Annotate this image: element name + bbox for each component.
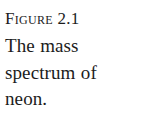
figure-label-lead-letter: F <box>5 9 15 28</box>
caption-line-1: The mass <box>5 33 144 60</box>
figure-label-word: igure <box>15 9 53 28</box>
figure-caption-block: Figure 2.1 The mass spectrum of neon. <box>0 0 148 131</box>
figure-caption-text: The mass spectrum of neon. <box>5 33 144 113</box>
figure-label-number: 2.1 <box>58 9 80 28</box>
caption-line-3: neon. <box>5 86 144 113</box>
caption-line-2: spectrum of <box>5 60 144 87</box>
figure-label: Figure 2.1 <box>5 6 144 32</box>
